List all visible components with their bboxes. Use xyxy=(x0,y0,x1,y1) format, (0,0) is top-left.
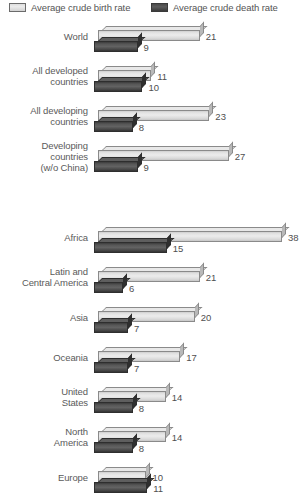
bar-end-cap xyxy=(128,314,132,329)
row-bars: 219 xyxy=(0,22,305,62)
bar-end-cap xyxy=(209,102,213,117)
bar-end-cap xyxy=(229,142,233,157)
bar-end-cap xyxy=(200,22,204,37)
chart-row: Latin andCentral America216 xyxy=(0,263,305,303)
bar-face xyxy=(94,161,138,172)
value-label-birth-rate: 14 xyxy=(172,432,183,443)
bar-end-cap xyxy=(123,274,127,289)
legend-swatch-death-rate-icon xyxy=(151,3,168,12)
bar-end-cap xyxy=(128,354,132,369)
bar-face xyxy=(94,121,133,132)
value-label-birth-rate: 27 xyxy=(235,151,246,162)
chart-row: NorthAmerica148 xyxy=(0,423,305,463)
bar-death-rate xyxy=(94,362,128,373)
bar-death-rate xyxy=(94,282,123,293)
bar-death-rate xyxy=(94,161,138,172)
value-label-death-rate: 15 xyxy=(173,243,184,254)
legend-item-birth-rate: Average crude birth rate xyxy=(9,2,130,13)
chart-row: Asia207 xyxy=(0,303,305,343)
row-bars: 3815 xyxy=(0,223,305,263)
bar-face xyxy=(94,402,133,413)
legend-item-death-rate: Average crude death rate xyxy=(151,2,278,13)
legend-label-death-rate: Average crude death rate xyxy=(173,2,278,13)
bar-end-cap xyxy=(166,423,170,438)
bar-face xyxy=(94,242,167,253)
chart-row: All developedcountries1110 xyxy=(0,62,305,102)
bar-end-cap xyxy=(167,234,171,249)
bar-end-cap xyxy=(180,343,184,358)
row-bars: 216 xyxy=(0,263,305,303)
value-label-death-rate: 8 xyxy=(139,122,144,133)
value-label-death-rate: 6 xyxy=(129,283,134,294)
bar-end-cap xyxy=(138,153,142,168)
bar-end-cap xyxy=(142,73,146,88)
bar-death-rate xyxy=(94,81,142,92)
value-label-death-rate: 7 xyxy=(134,323,139,334)
bar-end-cap xyxy=(151,62,155,77)
row-bars: 238 xyxy=(0,102,305,142)
row-bars: 207 xyxy=(0,303,305,343)
value-label-death-rate: 9 xyxy=(144,162,149,173)
legend-swatch-birth-rate-icon xyxy=(9,3,26,12)
value-label-death-rate: 8 xyxy=(139,443,144,454)
bar-end-cap xyxy=(282,223,286,238)
row-bars: 279 xyxy=(0,142,305,182)
bar-face xyxy=(94,41,138,52)
chart-row: UnitedStates148 xyxy=(0,383,305,423)
bar-end-cap xyxy=(195,303,199,318)
row-bars: 1011 xyxy=(0,463,305,497)
value-label-death-rate: 11 xyxy=(153,483,163,494)
value-label-birth-rate: 38 xyxy=(288,232,299,243)
value-label-death-rate: 9 xyxy=(144,42,149,53)
bar-death-rate xyxy=(94,442,133,453)
row-bars: 177 xyxy=(0,343,305,383)
bar-face xyxy=(94,282,123,293)
chart-row: Developingcountries(w/o China)279 xyxy=(0,142,305,182)
value-label-death-rate: 10 xyxy=(148,82,159,93)
bar-death-rate xyxy=(94,402,133,413)
chart-legend: Average crude birth rate Average crude d… xyxy=(0,0,305,20)
bar-end-cap xyxy=(133,113,137,128)
bar-death-rate xyxy=(94,121,133,132)
value-label-birth-rate: 20 xyxy=(201,312,212,323)
value-label-birth-rate: 21 xyxy=(206,272,217,283)
bar-end-cap xyxy=(200,263,204,278)
value-label-birth-rate: 21 xyxy=(206,31,217,42)
bar-end-cap xyxy=(133,394,137,409)
bar-group-regions: Africa3815Latin andCentral America216Asi… xyxy=(0,223,305,497)
bar-face xyxy=(94,442,133,453)
bar-face xyxy=(94,482,147,493)
value-label-birth-rate: 14 xyxy=(172,392,183,403)
row-bars: 148 xyxy=(0,383,305,423)
bar-group-global: World219All developedcountries1110All de… xyxy=(0,22,305,182)
chart-row: Oceania177 xyxy=(0,343,305,383)
bar-end-cap xyxy=(133,434,137,449)
bar-chart-plot-area: World219All developedcountries1110All de… xyxy=(0,20,305,438)
bar-death-rate xyxy=(94,41,138,52)
chart-row: Europe1011 xyxy=(0,463,305,497)
bar-death-rate xyxy=(94,242,167,253)
bar-face xyxy=(94,362,128,373)
value-label-death-rate: 7 xyxy=(134,363,139,374)
value-label-birth-rate: 23 xyxy=(215,111,226,122)
chart-row: Africa3815 xyxy=(0,223,305,263)
value-label-birth-rate: 17 xyxy=(186,352,197,363)
chart-row: World219 xyxy=(0,22,305,62)
bar-death-rate xyxy=(94,482,147,493)
value-label-death-rate: 8 xyxy=(139,403,144,414)
bar-face xyxy=(94,322,128,333)
bar-end-cap xyxy=(138,33,142,48)
row-bars: 148 xyxy=(0,423,305,463)
bar-end-cap xyxy=(166,383,170,398)
legend-label-birth-rate: Average crude birth rate xyxy=(31,2,130,13)
value-label-birth-rate: 11 xyxy=(157,71,167,82)
bar-death-rate xyxy=(94,322,128,333)
bar-face xyxy=(94,81,142,92)
bar-end-cap xyxy=(147,474,151,489)
row-bars: 1110 xyxy=(0,62,305,102)
chart-row: All developingcountries238 xyxy=(0,102,305,142)
